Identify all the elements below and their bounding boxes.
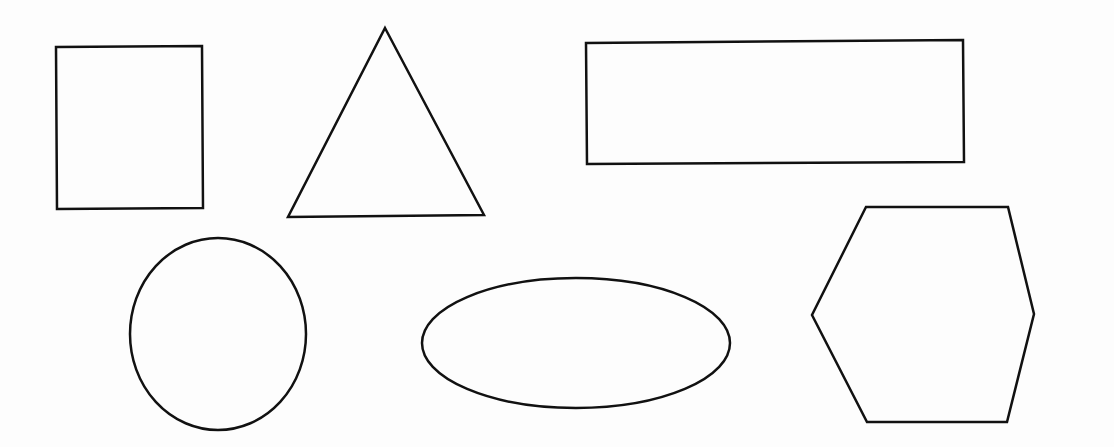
triangle-shape [288,28,484,217]
rectangle-shape [586,40,964,164]
ellipse-shape [422,278,730,408]
shapes-canvas [0,0,1114,447]
hexagon-shape [812,207,1034,422]
square-shape [56,46,203,209]
circle-shape [130,238,306,430]
